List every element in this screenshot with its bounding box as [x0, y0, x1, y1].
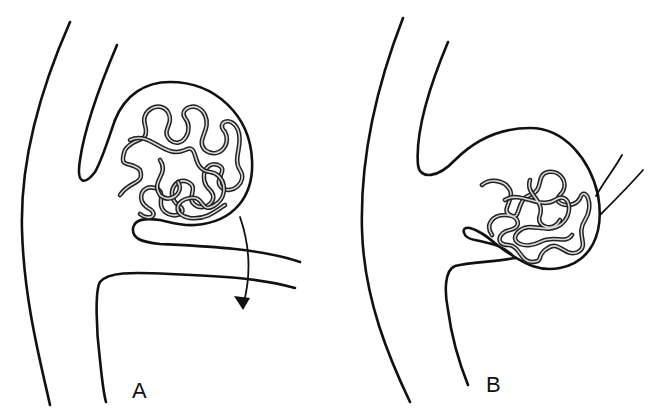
- panel-a-flow-arrow: [240, 217, 248, 302]
- panel-a-vessel-wall-left: [22, 22, 70, 405]
- panel-a-drawing: [22, 22, 300, 405]
- panel-b-side-branch: [596, 155, 643, 215]
- diagram-canvas: [0, 0, 658, 412]
- panel-a-label: A: [132, 378, 147, 404]
- panel-b-branch-wall: [446, 258, 515, 385]
- panel-b-drawing: [362, 18, 643, 402]
- panel-b-vessel-wall-left: [362, 18, 410, 402]
- panel-b-label: B: [486, 372, 501, 398]
- panel-b-coil-mass: [482, 172, 589, 262]
- arrowhead-icon: [234, 296, 250, 310]
- panel-a-coil-mass: [120, 107, 242, 219]
- panel-a-branch-wall: [97, 273, 295, 402]
- panel-a-vessel-wall-right: [79, 45, 117, 181]
